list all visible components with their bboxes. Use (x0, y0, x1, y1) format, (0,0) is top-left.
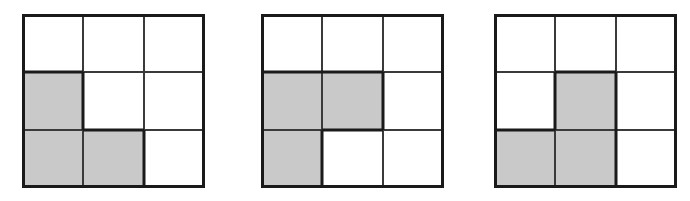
grid-svg (494, 14, 677, 188)
grid-2 (261, 14, 444, 188)
shaded-cell-r1-c1 (322, 72, 384, 131)
grid-1 (22, 14, 205, 188)
shaded-cell-r2-c1 (555, 130, 617, 188)
shaded-cell-r1-c0 (22, 72, 84, 131)
grid-svg (22, 14, 205, 188)
shaded-cell-r2-c1 (83, 130, 145, 188)
figure-canvas (0, 0, 690, 201)
shaded-cell-r2-c0 (261, 130, 323, 188)
shaded-cell-r1-c1 (555, 72, 617, 131)
grid-3 (494, 14, 677, 188)
shaded-cell-r1-c0 (261, 72, 323, 131)
shaded-cell-r2-c0 (494, 130, 556, 188)
grid-svg (261, 14, 444, 188)
shaded-cell-r2-c0 (22, 130, 84, 188)
